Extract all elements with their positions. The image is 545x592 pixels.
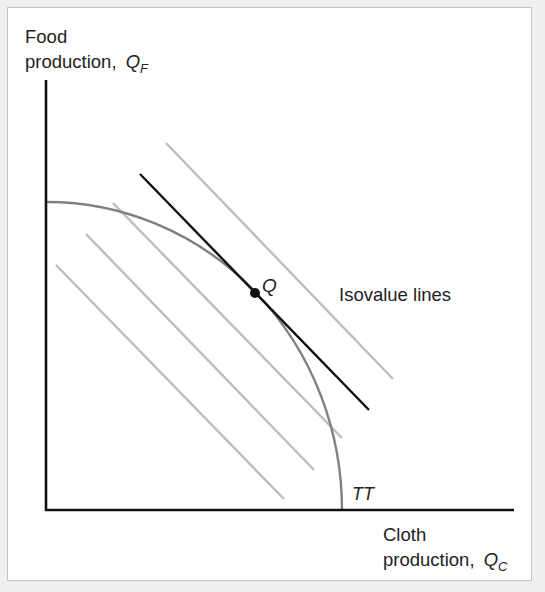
tt-curve-label: TT: [352, 484, 376, 504]
x-axis-label-line2: production, QC: [383, 549, 508, 574]
isovalue-lines: [56, 143, 393, 499]
y-axis-label-line2: production, QF: [25, 51, 149, 76]
x-axis-label-line1: Cloth: [383, 524, 426, 545]
production-diagram: Food production, QF Cloth production, QC…: [0, 0, 545, 592]
isovalue-line: [56, 265, 284, 499]
isovalue-line: [166, 143, 393, 379]
isovalue-line: [113, 203, 342, 438]
y-axis-label-line1: Food: [25, 26, 67, 47]
tt-curve: [47, 202, 342, 510]
tangency-point: [250, 288, 260, 298]
isovalue-lines-label: Isovalue lines: [339, 284, 451, 305]
isovalue-line: [86, 234, 314, 470]
point-q-label: Q: [262, 275, 277, 296]
